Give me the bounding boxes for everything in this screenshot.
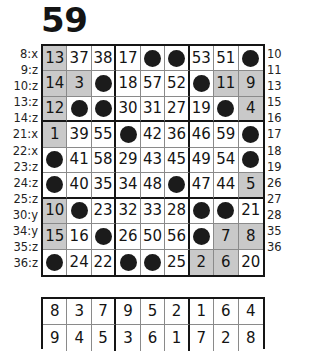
main-cell-r2-c0[interactable]: 12 (43, 97, 67, 122)
main-cell-r2-c5[interactable]: 27 (165, 97, 189, 122)
main-cell-r7-c2[interactable] (92, 224, 116, 249)
main-cell-r4-c5[interactable]: 45 (165, 148, 189, 173)
bottom-cell-r0-c1[interactable]: 3 (67, 299, 91, 325)
main-cell-r4-c1[interactable]: 41 (67, 148, 91, 173)
main-cell-r2-c3[interactable]: 30 (116, 97, 140, 122)
main-cell-r2-c6[interactable]: 19 (190, 97, 214, 122)
bottom-cell-r0-c3[interactable]: 9 (116, 299, 140, 325)
main-cell-r7-c1[interactable]: 16 (67, 224, 91, 249)
bottom-cell-r1-c0[interactable]: 9 (43, 325, 67, 351)
main-cell-r1-c5[interactable]: 52 (165, 71, 189, 96)
main-puzzle-grid[interactable]: 1337381753511431857521191230312719413955… (41, 44, 265, 277)
main-cell-r7-c3[interactable]: 26 (116, 224, 140, 249)
main-cell-r0-c7[interactable]: 51 (214, 46, 238, 71)
main-cell-r0-c6[interactable]: 53 (190, 46, 214, 71)
main-cell-r8-c8[interactable]: 20 (239, 250, 263, 275)
main-cell-r2-c2[interactable] (92, 97, 116, 122)
main-cell-r3-c6[interactable]: 46 (190, 122, 214, 147)
main-cell-r8-c3[interactable] (116, 250, 140, 275)
main-cell-r7-c0[interactable]: 15 (43, 224, 67, 249)
main-cell-r6-c1[interactable] (67, 199, 91, 224)
main-cell-r8-c2[interactable]: 22 (92, 250, 116, 275)
main-cell-r4-c2[interactable]: 58 (92, 148, 116, 173)
main-cell-r0-c0[interactable]: 13 (43, 46, 67, 71)
main-cell-r6-c0[interactable]: 10 (43, 199, 67, 224)
main-cell-r6-c2[interactable]: 23 (92, 199, 116, 224)
main-cell-r5-c8[interactable]: 5 (239, 173, 263, 198)
main-cell-r3-c7[interactable]: 59 (214, 122, 238, 147)
main-cell-r2-c4[interactable]: 31 (141, 97, 165, 122)
main-cell-r7-c8[interactable]: 8 (239, 224, 263, 249)
main-cell-r0-c2[interactable]: 38 (92, 46, 116, 71)
main-cell-r1-c2[interactable] (92, 71, 116, 96)
main-cell-r6-c4[interactable]: 33 (141, 199, 165, 224)
bottom-cell-r1-c5[interactable]: 1 (165, 325, 189, 351)
bottom-cell-r0-c0[interactable]: 8 (43, 299, 67, 325)
bottom-answer-grid[interactable]: 837952164945361728 (41, 297, 265, 349)
main-cell-r3-c3[interactable] (116, 122, 140, 147)
bottom-cell-r1-c4[interactable]: 6 (141, 325, 165, 351)
main-cell-r3-c5[interactable]: 36 (165, 122, 189, 147)
main-cell-r2-c8[interactable]: 4 (239, 97, 263, 122)
main-cell-r1-c6[interactable] (190, 71, 214, 96)
main-cell-r0-c1[interactable]: 37 (67, 46, 91, 71)
main-cell-r3-c1[interactable]: 39 (67, 122, 91, 147)
main-cell-r8-c0[interactable] (43, 250, 67, 275)
main-cell-r4-c7[interactable]: 54 (214, 148, 238, 173)
main-cell-r2-c7[interactable] (214, 97, 238, 122)
bottom-cell-r0-c6[interactable]: 1 (190, 299, 214, 325)
main-cell-r5-c7[interactable]: 44 (214, 173, 238, 198)
main-cell-r3-c2[interactable]: 55 (92, 122, 116, 147)
main-cell-r3-c8[interactable] (239, 122, 263, 147)
main-cell-r5-c1[interactable]: 40 (67, 173, 91, 198)
main-cell-r4-c6[interactable]: 49 (190, 148, 214, 173)
bottom-cell-r0-c7[interactable]: 6 (214, 299, 238, 325)
main-cell-r7-c4[interactable]: 50 (141, 224, 165, 249)
main-cell-r8-c4[interactable] (141, 250, 165, 275)
main-cell-r7-c6[interactable] (190, 224, 214, 249)
main-cell-r1-c7[interactable]: 11 (214, 71, 238, 96)
main-cell-r5-c3[interactable]: 34 (116, 173, 140, 198)
main-cell-r8-c1[interactable]: 24 (67, 250, 91, 275)
bottom-cell-r0-c4[interactable]: 5 (141, 299, 165, 325)
main-cell-r1-c0[interactable]: 14 (43, 71, 67, 96)
main-cell-r5-c0[interactable] (43, 173, 67, 198)
main-cell-r6-c7[interactable] (214, 199, 238, 224)
main-cell-r6-c8[interactable]: 21 (239, 199, 263, 224)
main-cell-r2-c1[interactable] (67, 97, 91, 122)
bottom-cell-r1-c8[interactable]: 8 (239, 325, 263, 351)
main-cell-r4-c4[interactable]: 43 (141, 148, 165, 173)
main-cell-r5-c6[interactable]: 47 (190, 173, 214, 198)
main-cell-r5-c2[interactable]: 35 (92, 173, 116, 198)
bottom-cell-r1-c2[interactable]: 5 (92, 325, 116, 351)
main-cell-r5-c4[interactable]: 48 (141, 173, 165, 198)
main-cell-r1-c3[interactable]: 18 (116, 71, 140, 96)
main-cell-r7-c7[interactable]: 7 (214, 224, 238, 249)
main-cell-r4-c8[interactable] (239, 148, 263, 173)
bottom-cell-r1-c7[interactable]: 2 (214, 325, 238, 351)
bottom-cell-r0-c2[interactable]: 7 (92, 299, 116, 325)
bottom-cell-r0-c5[interactable]: 2 (165, 299, 189, 325)
main-cell-r7-c5[interactable]: 56 (165, 224, 189, 249)
bottom-cell-r1-c3[interactable]: 3 (116, 325, 140, 351)
main-cell-r3-c0[interactable]: 1 (43, 122, 67, 147)
main-cell-r0-c5[interactable] (165, 46, 189, 71)
main-cell-r6-c6[interactable] (190, 199, 214, 224)
main-cell-r0-c8[interactable] (239, 46, 263, 71)
main-cell-r4-c0[interactable] (43, 148, 67, 173)
main-cell-r6-c5[interactable]: 28 (165, 199, 189, 224)
main-cell-r1-c4[interactable]: 57 (141, 71, 165, 96)
main-cell-r3-c4[interactable]: 42 (141, 122, 165, 147)
main-cell-r8-c6[interactable]: 2 (190, 250, 214, 275)
main-cell-r1-c8[interactable]: 9 (239, 71, 263, 96)
bottom-cell-r1-c1[interactable]: 4 (67, 325, 91, 351)
main-cell-r4-c3[interactable]: 29 (116, 148, 140, 173)
main-cell-r0-c3[interactable]: 17 (116, 46, 140, 71)
main-cell-r6-c3[interactable]: 32 (116, 199, 140, 224)
main-cell-r0-c4[interactable] (141, 46, 165, 71)
main-cell-r1-c1[interactable]: 3 (67, 71, 91, 96)
main-cell-r5-c5[interactable] (165, 173, 189, 198)
main-cell-r8-c7[interactable]: 6 (214, 250, 238, 275)
main-cell-r8-c5[interactable]: 25 (165, 250, 189, 275)
bottom-cell-r0-c8[interactable]: 4 (239, 299, 263, 325)
